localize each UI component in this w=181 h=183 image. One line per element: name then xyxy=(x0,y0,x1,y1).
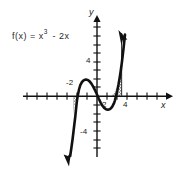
y-axis-arrowhead xyxy=(93,15,100,22)
curve-arrowhead-down xyxy=(64,152,72,167)
function-graph-figure: f(x) = x3 - 2x y x 4 -4 -2 2 4 xyxy=(0,0,181,183)
x-tick-label-4: 4 xyxy=(123,101,127,109)
y-tick-label-neg-4: -4 xyxy=(80,128,87,136)
x-tick-label-neg-2: -2 xyxy=(66,79,73,87)
function-expression-prefix: f(x) = x xyxy=(12,31,44,41)
x-tick-label-2: 2 xyxy=(102,101,106,109)
y-axis-label: y xyxy=(89,8,94,17)
function-expression-exponent: 3 xyxy=(44,28,48,35)
x-axis-label: x xyxy=(161,101,166,110)
function-expression-suffix: - 2x xyxy=(52,31,69,41)
function-expression-label: f(x) = x3 - 2x xyxy=(12,30,69,41)
plot-area xyxy=(0,0,181,183)
y-tick-label-4: 4 xyxy=(86,57,90,65)
x-axis-arrowhead xyxy=(166,93,173,100)
